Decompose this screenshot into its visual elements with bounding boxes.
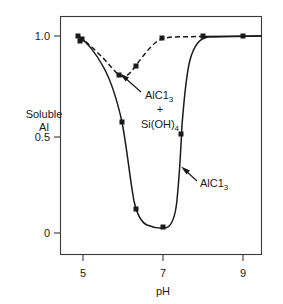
annotation-upper-line1-sub: 3 [169, 95, 174, 104]
y-tick-label-1: 1.0 [35, 30, 50, 42]
markers-alcl3 [78, 39, 184, 230]
annotation-lower-sub: 3 [224, 183, 229, 192]
annotation-lower: AlC13 [200, 177, 229, 192]
y-axis-ticks [54, 36, 61, 233]
x-tick-label-9: 9 [240, 267, 246, 279]
annotation-upper-plus: + [157, 103, 163, 115]
plot-frame [61, 17, 262, 255]
x-tick-label-5: 5 [80, 267, 86, 279]
annotation-arrow-upper [120, 74, 141, 93]
y-axis-label-line2: Al [39, 121, 49, 133]
annotation-lower-main: AlC1 [200, 177, 224, 189]
soluble-al-vs-ph-chart: 5 7 9 pH 1.0 0.5 0 Soluble Al [0, 0, 283, 304]
curve-alcl3 [79, 36, 261, 228]
annotation-upper-line3-sub: 4 [175, 124, 180, 133]
x-axis-ticks [83, 255, 243, 262]
y-axis-label-line1: Soluble [26, 108, 63, 120]
figure-container: 5 7 9 pH 1.0 0.5 0 Soluble Al [0, 0, 283, 304]
y-tick-label-0: 0 [44, 227, 50, 239]
annotation-arrow-lower [181, 167, 197, 182]
annotation-upper-line1-main: AlC1 [145, 89, 169, 101]
annotation-upper-line3-main: Si(OH) [141, 118, 175, 130]
annotation-upper-line3: Si(OH)4 [141, 118, 180, 133]
x-axis-label: pH [156, 285, 170, 297]
annotation-upper-line1: AlC13 [145, 89, 174, 104]
x-tick-label-7: 7 [160, 267, 166, 279]
